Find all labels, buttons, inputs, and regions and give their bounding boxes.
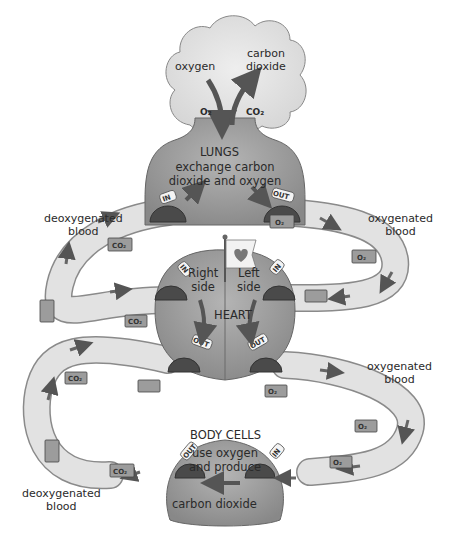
lungs-desc-line1: exchange carbon [158, 160, 292, 174]
heart-title: HEART [214, 308, 252, 322]
svg-text:O₂: O₂ [357, 254, 366, 262]
left-line1: Left [237, 266, 261, 280]
air-cloud [166, 16, 306, 133]
svg-text:CO₂: CO₂ [113, 468, 127, 476]
deoxy-bottom-line1: deoxygenated [22, 487, 101, 500]
cloud-carbon-dioxide-label: carbon dioxide [246, 47, 286, 73]
heart-right-side-label: Right side [188, 266, 218, 294]
deoxy-top-line1: deoxygenated [44, 212, 123, 225]
oxy-mid-line2: blood [367, 373, 432, 386]
deoxy-bottom-line2: blood [22, 500, 101, 513]
svg-text:O₂: O₂ [333, 459, 342, 467]
lungs-desc-line2: dioxide and oxygen [158, 174, 292, 188]
carbon-line: carbon [246, 47, 286, 60]
body-cells-description: use oxygen and produce [180, 446, 270, 474]
o2-symbol: O₂ [200, 106, 212, 119]
dioxide-line: dioxide [246, 60, 286, 73]
body-cells-title: BODY CELLS [190, 428, 261, 442]
heart-left-side-label: Left side [237, 266, 261, 294]
oxygenated-blood-label-top: oxygenated blood [368, 212, 433, 238]
right-line2: side [188, 280, 218, 294]
cloud-oxygen-label: oxygen [175, 60, 215, 73]
svg-text:CO₂: CO₂ [112, 242, 126, 250]
co2-symbol: CO₂ [246, 106, 264, 119]
deoxygenated-blood-label-bottom: deoxygenated blood [22, 487, 101, 513]
svg-text:O₂: O₂ [358, 423, 367, 431]
oxy-top-line1: oxygenated [368, 212, 433, 225]
left-line2: side [237, 280, 261, 294]
oxy-top-line2: blood [368, 225, 433, 238]
oxygenated-blood-label-middle: oxygenated blood [367, 360, 432, 386]
right-line1: Right [188, 266, 218, 280]
svg-text:O₂: O₂ [275, 219, 284, 227]
deoxy-top-line2: blood [44, 225, 123, 238]
svg-text:CO₂: CO₂ [68, 375, 82, 383]
svg-text:CO₂: CO₂ [128, 318, 142, 326]
deoxygenated-blood-label-top: deoxygenated blood [44, 212, 123, 238]
lungs-title: LUNGS [200, 145, 239, 159]
body-cells-description-bottom: carbon dioxide [172, 497, 257, 511]
body-desc-line2: and produce [180, 460, 270, 474]
lungs-description: exchange carbon dioxide and oxygen [158, 160, 292, 188]
svg-text:O₂: O₂ [268, 388, 277, 396]
body-desc-line1: use oxygen [180, 446, 270, 460]
oxy-mid-line1: oxygenated [367, 360, 432, 373]
